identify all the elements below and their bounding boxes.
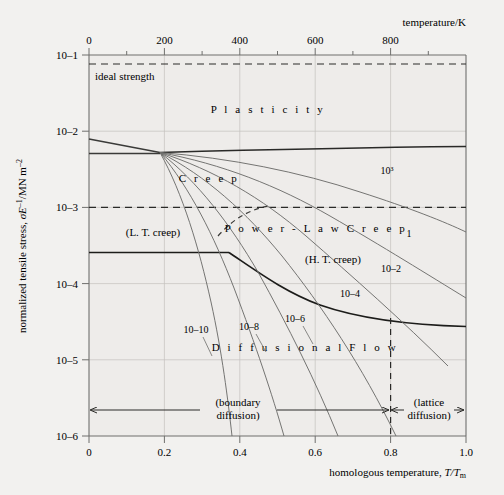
bottom-tick-label-08: 0.8	[384, 446, 398, 458]
deformation-mechanism-map-figure: 0 200 400 600 800 temperature/K 0 0.2 0.…	[0, 0, 504, 495]
y-tick-label-2: 10–2	[56, 125, 78, 137]
bottom-axis-title-sub: m	[460, 471, 467, 480]
bottom-axis-title: homologous temperature, T/Tm	[329, 466, 466, 480]
field-label-diffusional-flow: D i f f u s i o n a l F l o w	[212, 341, 399, 353]
bottom-tick-label-04: 0.4	[233, 446, 247, 458]
y-tick-label-5: 10–5	[56, 354, 79, 366]
bottom-tick-label-06: 0.6	[308, 446, 322, 458]
bottom-tick-label-02: 0.2	[158, 446, 172, 458]
annotation-lattice-diffusion-line2: diffusion)	[407, 409, 451, 422]
annotation-boundary-diffusion-line1: (boundary	[215, 396, 261, 409]
annotation-lt-creep: (L. T. creep)	[126, 226, 181, 239]
bottom-tick-label-0: 0	[86, 446, 92, 458]
annotation-ht-creep: (H. T. creep)	[305, 253, 361, 266]
y-tick-label-4: 10–4	[56, 278, 79, 290]
rate-label-1e3: 10³	[381, 165, 394, 176]
field-label-plasticity: P l a s t i c i t y	[211, 103, 326, 115]
y-axis-title: normalized tensile stress, σE–1/MN m–2	[15, 159, 29, 333]
y-tick-label-1: 10–1	[56, 49, 78, 61]
rate-label-1em8: 10–8	[239, 321, 259, 332]
rate-label-1em2: 10–2	[381, 263, 401, 274]
annotation-lattice-diffusion-line1: (lattice	[414, 396, 445, 409]
y-tick-label-3: 10–3	[56, 201, 79, 213]
y-axis-title-sup2: –2	[15, 159, 24, 168]
field-label-creep: C r e e p	[179, 172, 240, 184]
field-label-power-law-creep: P o w e r - L a w C r e e p	[225, 222, 408, 234]
annotation-ideal-strength: ideal strength	[95, 70, 155, 82]
y-tick-label-6: 10–6	[56, 430, 79, 442]
y-axis-title-main: normalized tensile stress,	[16, 219, 28, 333]
top-tick-label-600: 600	[307, 34, 324, 46]
bottom-axis-title-italic: T/T	[444, 466, 460, 478]
top-axis-title: temperature/K	[402, 16, 466, 28]
top-tick-label-0: 0	[86, 34, 92, 46]
rate-label-1em4: 10–4	[340, 288, 360, 299]
rate-label-1e0: 1	[407, 228, 412, 239]
annotation-boundary-diffusion-line2: diffusion)	[216, 409, 260, 422]
bottom-tick-label-10: 1.0	[459, 446, 473, 458]
bottom-axis-title-main: homologous temperature,	[329, 466, 444, 478]
y-axis-title-mid: /MN m	[16, 167, 28, 200]
rate-label-1em10: 10–10	[184, 324, 209, 335]
top-tick-label-400: 400	[232, 34, 249, 46]
y-axis-title-sup1: –1	[15, 199, 24, 208]
y-axis-title-italic: σE	[16, 207, 28, 219]
top-tick-label-800: 800	[382, 34, 399, 46]
rate-label-1em6: 10–6	[285, 313, 305, 324]
top-tick-label-200: 200	[156, 34, 173, 46]
chart-svg: 0 200 400 600 800 temperature/K 0 0.2 0.…	[0, 0, 504, 495]
